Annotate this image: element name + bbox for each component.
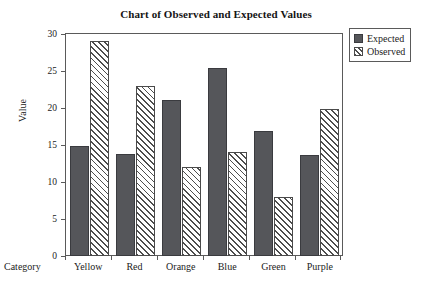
bar-expected-yellow[interactable] [70,146,89,256]
legend-item-expected[interactable]: Expected [354,32,405,45]
y-tick: 0 [52,250,65,262]
y-tick: 10 [48,176,66,188]
legend-label-observed: Observed [367,46,405,57]
x-tick-mark [157,256,158,260]
bar-observed-purple[interactable] [320,109,339,256]
y-tick-label: 15 [48,139,62,151]
bar-group [112,34,158,256]
x-tick-label: Orange [158,261,204,277]
x-tick-label: Blue [204,261,250,277]
x-tick-mark [65,256,66,260]
x-tick-mark [111,256,112,260]
legend-swatch-expected-icon [354,34,363,43]
legend-swatch-observed-icon [354,47,363,56]
y-tick-label: 5 [52,213,61,225]
bars-layer [66,34,342,256]
y-tick-label: 0 [52,250,61,262]
y-tick: 5 [52,213,65,225]
y-tick-label: 30 [48,28,62,40]
bar-observed-orange[interactable] [182,167,201,256]
x-tick-mark [249,256,250,260]
x-tick-mark [295,256,296,260]
bar-observed-blue[interactable] [228,152,247,256]
legend: Expected Observed [349,28,411,62]
x-tick-mark [340,256,341,260]
bar-observed-red[interactable] [136,86,155,256]
x-tick-label: Purple [297,261,343,277]
x-tick-mark [203,256,204,260]
bar-group [250,34,296,256]
bar-group [66,34,112,256]
bar-expected-green[interactable] [254,131,273,256]
y-tick: 25 [48,65,66,77]
y-tick-label: 20 [48,102,62,114]
bar-observed-yellow[interactable] [90,41,109,256]
legend-item-observed[interactable]: Observed [354,45,405,58]
y-tick: 20 [48,102,66,114]
bar-group [158,34,204,256]
bar-group [296,34,342,256]
x-tick-label: Red [111,261,157,277]
y-axis-ticks: 051015202530 [0,0,65,256]
y-tick-label: 10 [48,176,62,188]
y-tick-label: 25 [48,65,62,77]
x-tick-label: Green [250,261,296,277]
bar-expected-purple[interactable] [300,155,319,256]
bar-expected-orange[interactable] [162,100,181,256]
y-tick: 30 [48,28,66,40]
chart-container: Chart of Observed and Expected Values Va… [0,0,432,288]
y-tick: 15 [48,139,66,151]
bar-expected-red[interactable] [116,154,135,256]
bar-group [204,34,250,256]
bar-expected-blue[interactable] [208,68,227,256]
bar-observed-green[interactable] [274,197,293,256]
legend-label-expected: Expected [367,33,404,44]
x-axis-labels: YellowRedOrangeBlueGreenPurple [65,261,343,277]
x-tick-label: Yellow [65,261,111,277]
x-axis-title: Category [4,261,41,272]
